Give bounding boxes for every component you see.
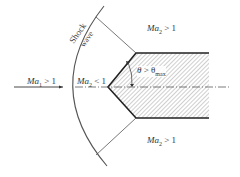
upper-supersonic-label: Ma2 > 1 — [147, 24, 176, 35]
diagram-canvas — [0, 0, 240, 177]
upstream-mach-label: Ma1 > 1 — [27, 77, 56, 88]
wedge-body — [108, 53, 209, 118]
upper-expansion-line — [96, 17, 136, 53]
lower-supersonic-label: Ma2 > 1 — [147, 136, 176, 147]
subsonic-region-label: Ma2 < 1 — [77, 77, 106, 88]
wedge-angle-label: θ > θmax — [137, 66, 166, 77]
lower-expansion-line — [96, 118, 136, 155]
